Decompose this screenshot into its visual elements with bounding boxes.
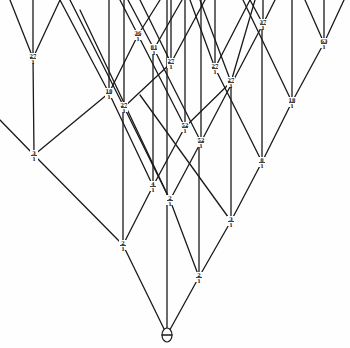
node-denominator: 1 bbox=[107, 94, 110, 100]
node-denominator: 1 bbox=[136, 36, 139, 42]
node-denominator: 1 bbox=[213, 69, 216, 75]
tree-node: 21 bbox=[119, 240, 127, 252]
tree-node: 271 bbox=[211, 63, 219, 75]
edge-line bbox=[231, 162, 262, 221]
node-denominator: 1 bbox=[290, 103, 293, 109]
tree-node: 181 bbox=[288, 97, 296, 109]
node-denominator: 1 bbox=[32, 156, 35, 162]
tree-node: 361 bbox=[134, 30, 142, 42]
tree-node: 521 bbox=[197, 137, 205, 149]
tree-node: 271 bbox=[120, 102, 128, 114]
edge-group bbox=[0, 0, 344, 335]
diagram-canvas: 2121314121318152152118127127136181127127… bbox=[0, 0, 350, 348]
edge-line bbox=[170, 142, 201, 200]
node-denominator: 1 bbox=[122, 108, 125, 114]
node-denominator: 1 bbox=[168, 201, 171, 207]
tree-node: 521 bbox=[181, 122, 189, 134]
edge-line bbox=[33, 58, 34, 155]
edge-line bbox=[190, 0, 215, 68]
node-denominator: 1 bbox=[121, 246, 124, 252]
edge-line bbox=[170, 200, 199, 277]
tree-node: 811 bbox=[150, 44, 158, 56]
node-denominator: 1 bbox=[199, 143, 202, 149]
tree-node: 271 bbox=[227, 77, 235, 89]
edge-line bbox=[167, 277, 199, 335]
tree-node: 631 bbox=[320, 38, 328, 50]
node-denominator: 1 bbox=[260, 163, 263, 169]
edge-line bbox=[262, 102, 292, 162]
tree-node: 41 bbox=[149, 181, 157, 193]
tree-node: 271 bbox=[29, 53, 37, 65]
edge-line bbox=[185, 82, 231, 127]
node-denominator: 1 bbox=[152, 50, 155, 56]
node-denominator: 1 bbox=[183, 128, 186, 134]
edge-line bbox=[199, 221, 231, 277]
edge-line bbox=[34, 93, 109, 155]
edge-line bbox=[0, 120, 34, 155]
edge-line bbox=[33, 0, 60, 58]
node-group: 2121314121318152152118127127136181127127… bbox=[29, 19, 328, 284]
node-denominator: 1 bbox=[31, 59, 34, 65]
tree-node: 81 bbox=[258, 157, 266, 169]
tree-node: 21 bbox=[166, 195, 174, 207]
tree-node: 31 bbox=[227, 216, 235, 228]
node-denominator: 1 bbox=[261, 25, 264, 31]
tree-node: 31 bbox=[30, 150, 38, 162]
tree-node: 371 bbox=[259, 19, 267, 31]
edge-line bbox=[123, 245, 167, 335]
root-node bbox=[162, 328, 172, 342]
edge-line bbox=[292, 43, 324, 102]
tree-node: 21 bbox=[195, 272, 203, 284]
node-denominator: 1 bbox=[322, 44, 325, 50]
tree-diagram: 2121314121318152152118127127136181127127… bbox=[0, 0, 350, 348]
node-denominator: 1 bbox=[169, 64, 172, 70]
edge-line bbox=[34, 155, 123, 245]
edge-line bbox=[154, 0, 182, 49]
node-denominator: 1 bbox=[151, 187, 154, 193]
edge-line bbox=[10, 0, 33, 58]
tree-node: 181 bbox=[105, 88, 113, 100]
edge-line bbox=[154, 49, 201, 142]
node-denominator: 1 bbox=[197, 278, 200, 284]
edge-line bbox=[123, 186, 153, 245]
edge-line bbox=[215, 68, 262, 162]
tree-node: 271 bbox=[167, 58, 175, 70]
edge-line bbox=[109, 93, 153, 186]
node-denominator: 1 bbox=[229, 83, 232, 89]
edge-line bbox=[60, 0, 109, 93]
node-denominator: 1 bbox=[229, 222, 232, 228]
edge-line bbox=[70, 0, 124, 107]
